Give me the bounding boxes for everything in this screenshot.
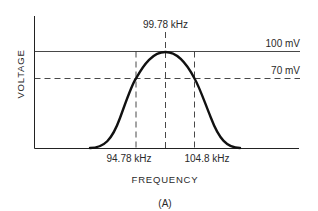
response-curve: [90, 52, 240, 148]
peak-voltage-label: 100 mV: [266, 38, 301, 49]
half-power-voltage-label: 70 mV: [271, 65, 300, 76]
center-frequency-label: 99.78 kHz: [143, 19, 188, 30]
figure-caption: (A): [158, 198, 171, 209]
lower-frequency-label: 94.78 kHz: [106, 153, 151, 164]
upper-frequency-label: 104.8 kHz: [184, 153, 229, 164]
x-axis-title: FREQUENCY: [132, 174, 199, 185]
bandpass-response-diagram: 99.78 kHz 100 mV 70 mV 94.78 kHz 104.8 k…: [0, 0, 318, 211]
y-axis-title: VOLTAGE: [15, 49, 26, 98]
